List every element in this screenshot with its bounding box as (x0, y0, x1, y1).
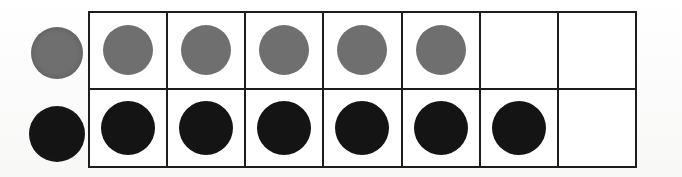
black-row-cell-7[interactable] (559, 90, 635, 167)
black-circle-1 (101, 101, 155, 155)
black-row-cell-2[interactable] (168, 90, 246, 167)
black-circle-5 (414, 101, 468, 155)
row-key-circles (0, 0, 88, 177)
key-black-circle (29, 106, 85, 162)
grey-circle-3 (259, 25, 309, 75)
key-grey-circle (31, 27, 83, 79)
circle-grid (88, 11, 637, 168)
grey-row-cell-3[interactable] (246, 13, 324, 88)
black-row-cell-1[interactable] (90, 90, 168, 167)
black-circle-4 (335, 101, 389, 155)
grey-circle-5 (416, 25, 466, 75)
grey-row-cell-6[interactable] (481, 13, 559, 88)
black-row-cell-6[interactable] (481, 90, 559, 167)
black-row-cell-5[interactable] (403, 90, 481, 167)
grey-row-cell-7[interactable] (559, 13, 635, 88)
grey-circle-2 (181, 25, 231, 75)
grey-circle-1 (103, 25, 153, 75)
black-row-cell-3[interactable] (246, 90, 324, 167)
grey-row (90, 13, 635, 90)
circle-grid-figure (0, 0, 682, 177)
grey-row-cell-1[interactable] (90, 13, 168, 88)
black-row (90, 90, 635, 167)
grey-row-cell-2[interactable] (168, 13, 246, 88)
grey-row-cell-4[interactable] (324, 13, 402, 88)
black-row-cell-4[interactable] (324, 90, 402, 167)
black-circle-3 (257, 101, 311, 155)
grey-row-cell-5[interactable] (403, 13, 481, 88)
grey-circle-4 (337, 25, 387, 75)
black-circle-6 (492, 101, 546, 155)
black-circle-2 (179, 101, 233, 155)
